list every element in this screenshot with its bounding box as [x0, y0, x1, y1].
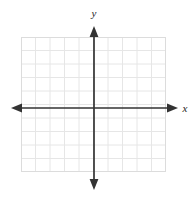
x-axis-label: x: [182, 102, 188, 114]
y-axis-up-arrowhead: [90, 26, 99, 37]
x-axis-left-arrowhead: [11, 104, 22, 113]
coordinate-plane-svg: y x: [0, 0, 194, 198]
coordinate-plane-figure: y x: [0, 0, 194, 198]
x-axis-right-arrowhead: [167, 104, 178, 113]
y-axis-label: y: [91, 7, 97, 19]
y-axis-down-arrowhead: [90, 179, 99, 190]
